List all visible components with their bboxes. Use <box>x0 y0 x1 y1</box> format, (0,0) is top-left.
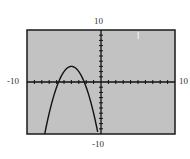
graph-plot <box>0 0 190 159</box>
scan-artifact <box>138 32 140 39</box>
